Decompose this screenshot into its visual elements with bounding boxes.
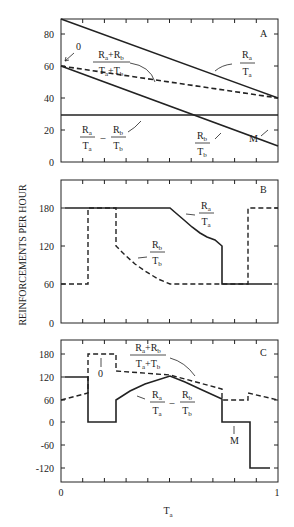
difference-arrow-c-icon: [137, 396, 145, 399]
svg-text:Rb: Rb: [152, 239, 163, 252]
rb-tb-label: Rb Tb: [195, 130, 210, 159]
svg-text:Tb: Tb: [152, 255, 162, 268]
panel-b: 180 120 60 0 B Ra Ta Rb Tb: [39, 180, 278, 329]
figure: REINFORCEMENTS PER HOUR 80 60 40 20 0 A …: [0, 0, 294, 527]
panel-c: 180 120 60 0 -60 -120 C Ra+Rb Ta+Tb 0 Ra…: [36, 340, 280, 519]
m-label-c: M: [230, 435, 239, 446]
ytick-40: 40: [44, 93, 54, 104]
zero-label: 0: [76, 41, 81, 52]
svg-text:Ta: Ta: [242, 66, 252, 79]
ytick-60: 60: [44, 279, 54, 290]
panel-a-frame: [61, 19, 278, 162]
svg-text:Rb: Rb: [113, 124, 124, 137]
svg-text:Rb: Rb: [197, 130, 208, 143]
svg-text:Tb: Tb: [197, 146, 207, 159]
ytick-0: 0: [49, 417, 54, 428]
ytick-120: 120: [39, 372, 54, 383]
ytick-180: 180: [39, 203, 54, 214]
y-axis-label: REINFORCEMENTS PER HOUR: [17, 184, 28, 325]
svg-text:Ra: Ra: [152, 389, 163, 402]
ytick-20: 20: [44, 125, 54, 136]
panel-b-letter: B: [260, 184, 267, 195]
panel-c-letter: C: [260, 347, 267, 358]
panel-b-frame: [61, 180, 278, 323]
rb-tb-label-b: Rb Tb: [150, 239, 165, 268]
svg-text:Rb: Rb: [182, 389, 193, 402]
difference-label-c: Ra Ta – Rb Tb: [150, 389, 195, 418]
svg-text:Ra+Rb: Ra+Rb: [98, 49, 124, 62]
zero-label-c: 0: [98, 368, 103, 379]
panel-a-ticks: [61, 19, 278, 162]
ytick-minus120: -120: [36, 463, 54, 474]
svg-text:–: –: [100, 132, 107, 143]
ra-ta-arrow-b-icon: [186, 214, 195, 215]
svg-text:Ta+Tb: Ta+Tb: [136, 358, 161, 371]
rb-tb-line: [61, 66, 278, 146]
ra-ta-arrow-icon: [215, 64, 232, 71]
rb-tb-curve: [61, 208, 278, 284]
svg-text:Ta: Ta: [201, 216, 211, 229]
x-axis-label: Ta: [163, 505, 173, 519]
svg-text:Ra+Rb: Ra+Rb: [135, 342, 161, 355]
svg-text:Ra: Ra: [242, 49, 253, 62]
xtick-1: 1: [275, 487, 280, 498]
panel-a-letter: A: [260, 28, 268, 39]
panel-a-ytick-labels: 80 60 40 20 0: [44, 29, 54, 168]
svg-text:Ta: Ta: [82, 140, 92, 153]
difference-arrow-icon: [128, 121, 141, 132]
combined-rate-arrow-c-icon: [170, 358, 195, 376]
svg-text:Ta+Tb: Ta+Tb: [99, 65, 124, 78]
svg-text:–: –: [169, 397, 176, 408]
m-label: M: [249, 133, 258, 144]
ra-ta-curve: [65, 208, 272, 284]
panel-a: 80 60 40 20 0 A 0 Ra+Rb Ta+Tb Ra Ta Ra: [44, 19, 278, 168]
ytick-60: 60: [44, 61, 54, 72]
svg-text:Tb: Tb: [182, 405, 192, 418]
svg-text:Tb: Tb: [113, 140, 123, 153]
panel-b-ticks: [61, 180, 278, 323]
ytick-120: 120: [39, 241, 54, 252]
ytick-0: 0: [49, 157, 54, 168]
combined-rate-label: Ra+Rb Ta+Tb: [93, 49, 130, 78]
ytick-180: 180: [39, 349, 54, 360]
m-arrow-icon: [261, 130, 268, 136]
difference-label: Ra Ta – Rb Tb: [80, 124, 126, 153]
svg-text:Ra: Ra: [82, 124, 93, 137]
ra-ta-label: Ra Ta: [240, 49, 255, 79]
panel-c-frame: [61, 340, 278, 482]
zero-arrow-icon: [65, 53, 74, 61]
panel-c-ytick-labels: 180 120 60 0 -60 -120: [36, 349, 54, 474]
ytick-60: 60: [44, 395, 54, 406]
rb-tb-arrow-icon: [215, 133, 221, 139]
ytick-0: 0: [49, 318, 54, 329]
combined-rate-label-c: Ra+Rb Ta+Tb: [130, 342, 166, 371]
difference-curve: [65, 376, 270, 468]
ytick-80: 80: [44, 29, 54, 40]
combined-rate-curve: [61, 354, 278, 400]
xtick-0: 0: [59, 487, 64, 498]
panel-b-ytick-labels: 180 120 60 0: [39, 203, 54, 329]
panel-c-ticks: [61, 340, 278, 482]
ytick-minus60: -60: [41, 440, 54, 451]
svg-text:Ta: Ta: [152, 405, 162, 418]
svg-text:Ra: Ra: [201, 200, 212, 213]
ra-ta-label-b: Ra Ta: [199, 200, 214, 229]
rb-tb-arrow-b-icon: [138, 257, 147, 258]
